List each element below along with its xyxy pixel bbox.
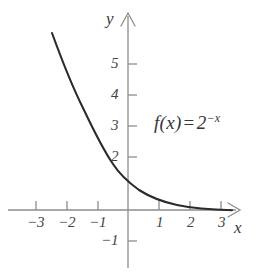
function-annotation: f(x)=2−x <box>154 112 220 132</box>
y-tick-label-3: 3 <box>111 118 119 133</box>
annotation-exponent: −x <box>206 111 220 125</box>
x-tick-label-neg3: −3 <box>27 215 45 230</box>
x-tick-label-neg2: −2 <box>58 215 76 230</box>
y-axis-label: y <box>106 10 114 27</box>
y-tick-label-2: 2 <box>111 149 119 164</box>
annotation-close-paren: ) <box>175 112 182 133</box>
x-axis-label: x <box>234 219 242 236</box>
x-tick-label-3: 3 <box>218 215 226 230</box>
x-tick-label-neg1: −1 <box>89 215 107 230</box>
x-tick-label-2: 2 <box>187 215 195 230</box>
annotation-base: 2 <box>197 112 207 133</box>
x-tick-label-1: 1 <box>156 215 164 230</box>
y-axis-ticks <box>128 64 137 241</box>
exponential-decay-figure: y x 5 4 3 2 −1 −3 −2 −1 1 2 3 f(x)=2−x <box>0 0 260 276</box>
annotation-equals: = <box>182 112 197 133</box>
y-tick-label-4: 4 <box>111 87 119 102</box>
plot-canvas <box>0 0 260 276</box>
y-tick-label-neg1: −1 <box>101 233 119 248</box>
y-tick-label-5: 5 <box>111 56 119 71</box>
annotation-arg: x <box>166 112 175 133</box>
